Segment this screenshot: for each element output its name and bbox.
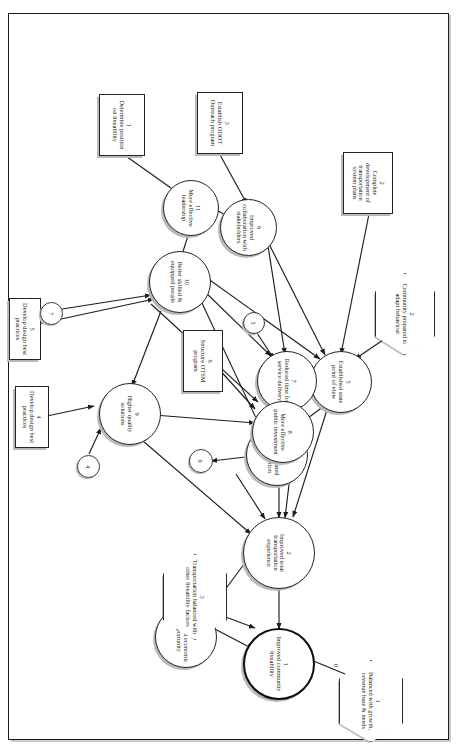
action-complete-development-of-transportation-system-plans[interactable]: 2 Complete development of transportation… xyxy=(343,152,393,214)
node-label: Higher quality solutions xyxy=(119,384,132,444)
edge-b7-o10 xyxy=(56,295,151,310)
factor-community-prepared-to-adapt-behaviour[interactable]: 2 Community prepared to adapt behaviour xyxy=(377,273,435,353)
node-more-effective-leadership[interactable]: 11 More effective leadership xyxy=(163,180,219,236)
node-improved-collaboration-with-stakeholders[interactable]: 6 Improved collaboration with stakeholde… xyxy=(220,199,277,256)
node-label: Improved community liveability xyxy=(268,630,281,698)
bubble-marker-5[interactable]: 5 xyxy=(243,312,265,334)
node-better-skilled-and-equipped-people[interactable]: 10 Better skilled & equipped people xyxy=(149,251,211,313)
factor-label: Community prepared to adapt behaviour xyxy=(394,274,407,354)
node-label: Improved collaboration with stakeholders xyxy=(235,200,255,255)
edge-label-h1-o1: 0 xyxy=(333,664,339,667)
action-develop-design-best-practices-5[interactable]: 5 Develop design best practices xyxy=(9,298,41,360)
action-label: Complete development of transportation s… xyxy=(351,153,377,213)
factor-transportation-balanced-with-other-liveability-factors[interactable]: 3 Transportation balanced with other liv… xyxy=(165,554,227,638)
action-develop-design-best-practices-4[interactable]: 4 Develop design best practices xyxy=(15,386,49,448)
edge-o10-o9 xyxy=(132,311,161,386)
action-label: Develop design best practices xyxy=(14,299,27,359)
action-label: Develop design best practices xyxy=(21,387,34,447)
node-improved-community-liveability[interactable]: 1 Improved community liveability xyxy=(243,628,315,700)
node-label: Better skilled & equipped people xyxy=(169,252,182,312)
node-label: More effective leadership xyxy=(180,181,193,235)
action-structure-otsm-program[interactable]: 6 Structure OTSM program xyxy=(183,330,223,392)
action-label: Establish ODOT Outreach program xyxy=(209,93,222,153)
diagram-page: 1 Improved community liveability 2 Impro… xyxy=(0,0,460,754)
node-label: More effective public investment xyxy=(272,402,285,462)
action-determine-position-on-liveability[interactable]: 1 Determine position on liveability xyxy=(99,94,145,156)
node-improved-total-transportation-experience[interactable]: 2 Improved total transportation experien… xyxy=(243,517,315,589)
node-higher-quality-solutions[interactable]: 9 Higher quality solutions xyxy=(99,383,161,445)
diagram-canvas: 1 Improved community liveability 2 Impro… xyxy=(10,14,451,741)
bubble-marker-7[interactable]: 7 xyxy=(40,302,63,325)
edge-b5-o7 xyxy=(255,330,274,359)
factor-label: Transportation balanced with other livea… xyxy=(184,555,197,639)
action-label: Determine position on liveability xyxy=(111,95,124,155)
edge-b4-o9 xyxy=(89,428,101,454)
action-label: Structure OTSM program xyxy=(192,331,205,391)
factor-balanced-with-growth[interactable]: 1 Balanced with growth, revenue base & n… xyxy=(341,660,403,740)
edge-o6-o5 xyxy=(265,236,325,355)
node-number: 2 xyxy=(285,551,292,554)
node-label: Established state point of view xyxy=(330,352,343,412)
node-label: Improved total transportation experience xyxy=(265,518,285,588)
edge-a3-o6 xyxy=(219,153,247,204)
edge-a1-o11 xyxy=(123,154,178,193)
edge-a4-o9 xyxy=(47,406,94,416)
edge-o6-o7 xyxy=(268,246,285,354)
action-establish-odot-outreach-program[interactable]: 3 Establish ODOT Outreach program xyxy=(197,92,243,154)
node-more-effective-public-investment[interactable]: 8 More effective public investment xyxy=(252,401,314,463)
bubble-marker-4[interactable]: 4 xyxy=(77,455,100,478)
edge-o4-b9 xyxy=(211,457,246,461)
bubble-marker-9[interactable]: 9 xyxy=(189,449,213,473)
factor-label: Balanced with growth, revenue base & nee… xyxy=(360,661,373,741)
edge-a2-o5 xyxy=(341,214,369,354)
node-established-state-point-of-view[interactable]: 5 Established state point of view xyxy=(310,351,372,413)
